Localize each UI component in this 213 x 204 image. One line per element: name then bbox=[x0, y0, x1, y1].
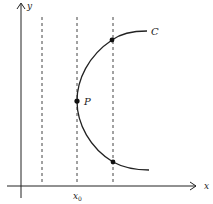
point-p bbox=[74, 98, 79, 103]
point-p-label: P bbox=[83, 96, 91, 107]
y-axis-label: y bbox=[26, 1, 33, 11]
x-axis-label: x bbox=[204, 181, 209, 191]
x0-tick-label: x0 bbox=[73, 191, 82, 202]
intersection-point-top bbox=[110, 38, 115, 43]
x0-subscript: 0 bbox=[78, 195, 82, 202]
intersection-point-bottom bbox=[111, 160, 116, 165]
curve-label: C bbox=[151, 26, 159, 37]
diagram-canvas: y x C P x0 bbox=[0, 0, 213, 204]
